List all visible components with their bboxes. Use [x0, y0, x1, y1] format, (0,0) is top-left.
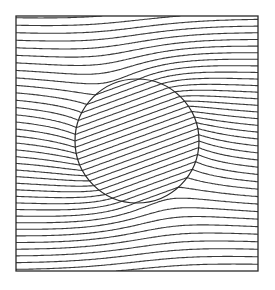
field-line	[16, 256, 259, 269]
field-line	[16, 19, 259, 33]
field-line-diagram	[0, 0, 275, 290]
field-line	[16, 78, 259, 112]
field-lines-group	[16, 16, 259, 271]
field-line	[116, 264, 259, 271]
field-line	[16, 16, 180, 26]
field-line	[16, 117, 259, 159]
field-line	[16, 123, 259, 165]
field-line	[16, 170, 259, 204]
field-line	[16, 249, 259, 263]
field-line	[16, 53, 259, 75]
field-line	[16, 208, 259, 230]
